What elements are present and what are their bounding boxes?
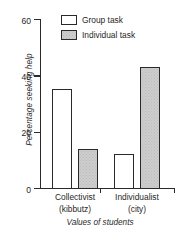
x-axis-title: Values of students — [30, 218, 170, 227]
y-tick-20: 20 — [34, 132, 40, 133]
y-axis-title: Percentage seeking help — [25, 25, 34, 175]
x-tick-end — [174, 188, 175, 193]
x-category-label-collectivist-line1: Collectivist — [55, 192, 95, 202]
legend-item-individual-task: Individual task — [61, 28, 135, 41]
bar-individualist-individual-task — [140, 67, 160, 189]
y-tick-label-60: 60 — [21, 16, 31, 26]
legend: Group task Individual task — [61, 13, 135, 43]
white-square-swatch-icon — [61, 15, 77, 25]
x-category-label-collectivist: Collectivist (kibbutz) — [40, 191, 110, 215]
y-tick-40: 40 — [34, 75, 40, 76]
y-tick-label-0: 0 — [26, 185, 31, 195]
legend-item-group-task: Group task — [61, 13, 135, 26]
x-category-label-collectivist-line2: (kibbutz) — [40, 203, 110, 215]
legend-label-group-task: Group task — [82, 15, 123, 25]
bar-collectivist-group-task — [52, 89, 72, 188]
x-category-label-individualist-line1: Individualist — [115, 192, 159, 202]
bar-chart-figure: Percentage seeking help 0 20 40 60 Group… — [0, 0, 178, 237]
bar-collectivist-individual-task — [78, 149, 98, 189]
legend-label-individual-task: Individual task — [82, 30, 135, 40]
y-tick-0: 0 — [34, 188, 40, 189]
bar-individualist-group-task — [114, 154, 134, 189]
y-axis-line — [40, 19, 41, 189]
x-category-label-individualist: Individualist (city) — [102, 191, 172, 215]
x-category-label-individualist-line2: (city) — [102, 203, 172, 215]
y-tick-label-40: 40 — [21, 72, 31, 82]
grey-square-swatch-icon — [61, 30, 77, 40]
y-tick-label-20: 20 — [21, 128, 31, 138]
y-tick-60: 60 — [34, 19, 40, 20]
